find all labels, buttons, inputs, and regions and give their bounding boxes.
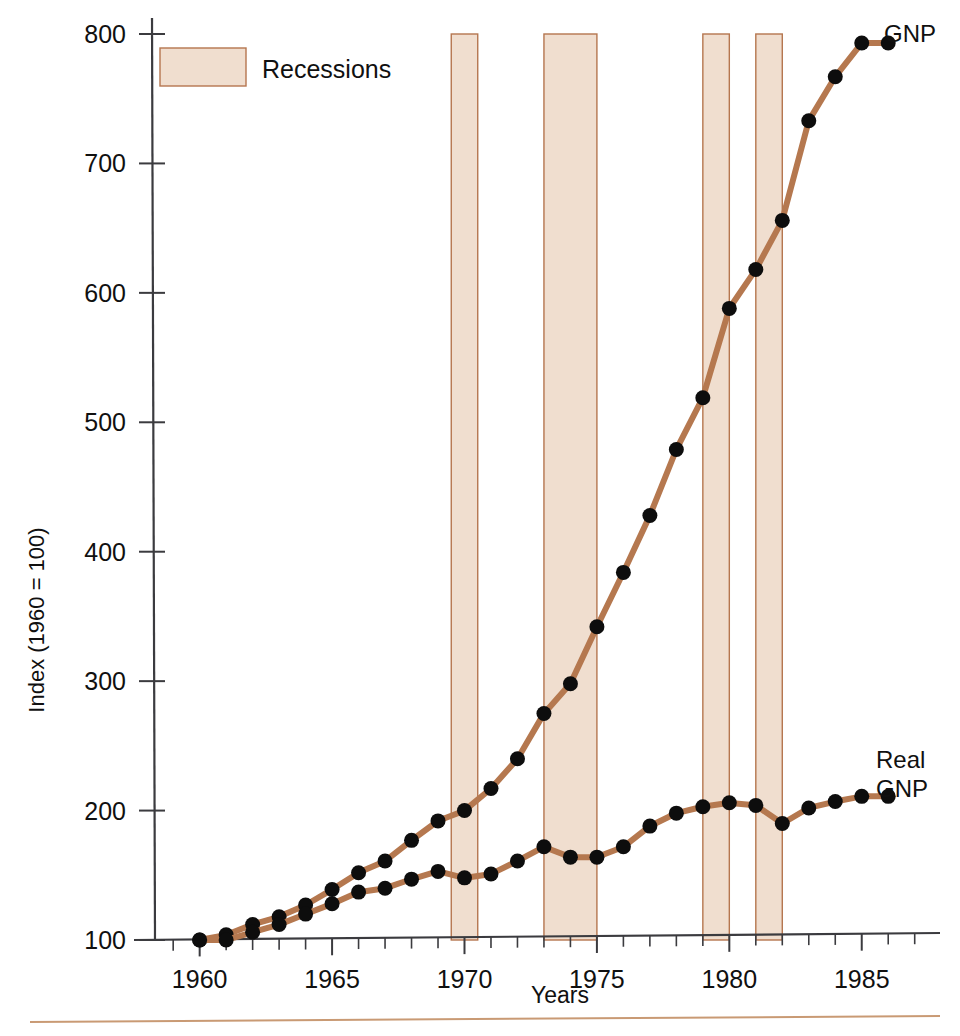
data-point-marker: [854, 789, 869, 804]
data-point-marker: [775, 213, 790, 228]
y-tick-label: 200: [84, 797, 126, 825]
data-point-marker: [219, 933, 234, 948]
series-line-segment: [471, 875, 485, 877]
data-point-marker: [510, 854, 525, 869]
data-point-marker: [801, 800, 816, 815]
data-point-marker: [483, 781, 498, 796]
x-axis-title: Years: [531, 982, 589, 1008]
series-line-segment: [784, 127, 807, 214]
data-point-marker: [854, 36, 869, 51]
recession-band: [544, 34, 597, 940]
series-line-segment: [417, 825, 433, 837]
series-line-segment: [839, 48, 857, 71]
series-line-segment: [812, 82, 832, 115]
data-point-marker: [404, 872, 419, 887]
series-line-segment: [390, 844, 406, 857]
y-axis-title: Index (1960 = 100): [24, 527, 49, 712]
y-axis-line: [152, 18, 155, 940]
data-point-marker: [828, 69, 843, 84]
data-point-marker: [325, 896, 340, 911]
data-point-marker: [616, 839, 631, 854]
data-point-marker: [457, 870, 472, 885]
data-point-marker: [616, 565, 631, 580]
chart-figure: 100200300400500600700800 196019651970197…: [0, 0, 960, 1036]
data-point-marker: [351, 885, 366, 900]
data-point-marker: [431, 864, 446, 879]
series-line-segment: [285, 908, 300, 914]
data-point-marker: [642, 819, 657, 834]
series-line-segment: [629, 830, 645, 843]
data-point-marker: [510, 751, 525, 766]
series-line-segment: [815, 803, 829, 806]
data-point-marker: [404, 833, 419, 848]
y-tick-label: 500: [84, 408, 126, 436]
data-point-marker: [669, 806, 684, 821]
data-point-marker: [457, 803, 472, 818]
series-line-segment: [523, 850, 538, 858]
data-point-marker: [431, 813, 446, 828]
series-line-segment: [365, 864, 380, 870]
series-line-segment: [521, 719, 541, 753]
data-point-marker: [722, 301, 737, 316]
legend-group: Recessions: [160, 48, 391, 86]
data-point-marker: [536, 706, 551, 721]
y-tick-label: 100: [84, 926, 126, 954]
data-point-marker: [695, 390, 710, 405]
x-tick-label: 1980: [702, 965, 758, 993]
series-line-segment: [497, 864, 512, 871]
data-point-marker: [378, 854, 393, 869]
series-line-segment: [312, 906, 326, 912]
data-point-marker: [748, 798, 763, 813]
data-point-marker: [801, 113, 816, 128]
data-point-marker: [748, 262, 763, 277]
x-tick-label: 1965: [304, 965, 360, 993]
legend-recessions-label: Recessions: [262, 55, 391, 83]
x-tick-label: 1985: [834, 965, 890, 993]
data-point-marker: [563, 850, 578, 865]
data-point-marker: [589, 619, 604, 634]
x-tick-label: 1970: [437, 965, 493, 993]
series-line-segment: [259, 919, 273, 923]
series-line-segment: [736, 803, 750, 804]
series-line-segment: [444, 873, 458, 876]
series-line-segment: [338, 895, 353, 901]
series-line-segment: [365, 889, 379, 891]
series-line-segment: [733, 275, 752, 303]
series-line-segment: [683, 808, 697, 811]
series-line-segment: [495, 764, 513, 784]
series-line-segment: [600, 578, 621, 621]
series-label-gnp: GNP: [884, 20, 936, 47]
series-line-segment: [285, 916, 299, 922]
y-tick-label: 600: [84, 279, 126, 307]
series-line-segment: [709, 804, 723, 806]
series-labels-group: GNPRealGNP: [876, 20, 936, 802]
series-line-segment: [652, 455, 674, 509]
y-tick-label: 700: [84, 149, 126, 177]
data-point-marker: [536, 839, 551, 854]
y-tick-label: 400: [84, 538, 126, 566]
series-line-segment: [656, 816, 671, 823]
data-point-marker: [642, 508, 657, 523]
data-point-marker: [192, 933, 207, 948]
data-point-marker: [775, 816, 790, 831]
data-point-marker: [828, 794, 843, 809]
series-line-segment: [311, 893, 326, 902]
series-line-segment: [391, 881, 405, 886]
x-tick-label: 1960: [172, 965, 228, 993]
series-line-segment: [626, 521, 647, 566]
footer-divider-rule: [30, 1016, 940, 1022]
data-point-marker: [589, 850, 604, 865]
series-line-segment: [603, 849, 617, 855]
data-point-marker: [351, 865, 366, 880]
series-line-segment: [259, 926, 273, 930]
data-point-marker: [483, 866, 498, 881]
series-line-segment: [679, 403, 700, 443]
data-point-marker: [695, 799, 710, 814]
y-tick-label: 800: [84, 20, 126, 48]
y-tick-label: 300: [84, 667, 126, 695]
axes-group: [134, 18, 940, 940]
data-point-marker: [272, 917, 287, 932]
series-line-segment: [232, 934, 246, 938]
data-point-marker: [298, 907, 313, 922]
series-line-segment: [788, 811, 803, 820]
